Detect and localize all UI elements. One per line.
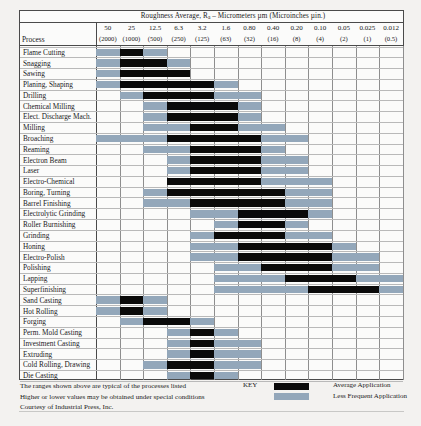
row-label-process: Superfinishing bbox=[23, 285, 66, 294]
bar-less-frequent-application bbox=[143, 199, 190, 206]
column-header-microinches: (250) bbox=[166, 34, 192, 44]
column-header-0: 50(2000) bbox=[95, 24, 121, 43]
row-label-process: Milling bbox=[23, 123, 45, 132]
row-label-process: Investment Casting bbox=[23, 339, 80, 348]
column-header-microinches: (2) bbox=[331, 34, 357, 44]
column-header-micrometers: 50 bbox=[104, 24, 111, 32]
bar-less-frequent-application bbox=[96, 135, 167, 142]
table-row[interactable]: Die Casting bbox=[20, 370, 403, 381]
table-row[interactable]: Electro-Chemical bbox=[20, 176, 403, 187]
bar-less-frequent-application bbox=[190, 253, 237, 260]
column-header-micrometers: 6.3 bbox=[174, 24, 183, 32]
table-row[interactable]: Grinding bbox=[20, 230, 403, 241]
row-label-process: Hot Rolling bbox=[23, 307, 58, 316]
table-row[interactable]: Boring, Turning bbox=[20, 187, 403, 198]
table-row[interactable]: Sand Casting bbox=[20, 294, 403, 305]
table-row[interactable]: Milling bbox=[20, 122, 403, 133]
bar-average-application bbox=[143, 318, 190, 325]
table-row[interactable]: Broaching bbox=[20, 133, 403, 144]
table-row[interactable]: Reaming bbox=[20, 144, 403, 155]
legend-key-word: KEY bbox=[243, 381, 257, 389]
row-label-process: Elect. Discharge Mach. bbox=[23, 112, 91, 121]
bar-less-frequent-application bbox=[285, 199, 332, 206]
bar-less-frequent-application bbox=[285, 189, 332, 196]
bar-less-frequent-application bbox=[96, 49, 120, 56]
table-row[interactable]: Electron Beam bbox=[20, 154, 403, 165]
row-label-process: Flame Cutting bbox=[23, 48, 65, 57]
bar-less-frequent-application bbox=[120, 318, 144, 325]
bar-less-frequent-application bbox=[238, 113, 262, 120]
table-row[interactable]: Elect. Discharge Mach. bbox=[20, 111, 403, 122]
bar-less-frequent-application bbox=[190, 318, 214, 325]
bar-less-frequent-application bbox=[214, 350, 261, 357]
column-header-12: 0.012(0.5) bbox=[378, 24, 404, 43]
column-header-4: 3.2(125) bbox=[189, 24, 215, 43]
bar-less-frequent-application bbox=[143, 113, 167, 120]
table-row[interactable]: Barrel Finishing bbox=[20, 197, 403, 208]
table-row[interactable]: Superfinishing bbox=[20, 284, 403, 295]
column-header-microinches: (1000) bbox=[118, 34, 144, 44]
table-row[interactable]: Extruding bbox=[20, 348, 403, 359]
column-header-microinches: (125) bbox=[189, 34, 215, 44]
chart-title-prefix: Roughness Average, R bbox=[141, 12, 208, 20]
bar-less-frequent-application bbox=[238, 124, 285, 131]
table-row[interactable]: Chemical Milling bbox=[20, 100, 403, 111]
bar-less-frequent-application bbox=[167, 59, 191, 66]
bar-average-application bbox=[190, 167, 261, 174]
table-row[interactable]: Cold Rolling, Drawing bbox=[20, 359, 403, 370]
bar-average-application bbox=[190, 372, 214, 379]
bar-less-frequent-application bbox=[214, 329, 238, 336]
row-label-process: Extruding bbox=[23, 350, 52, 359]
column-header-micrometers: 0.20 bbox=[290, 24, 302, 32]
bar-average-application bbox=[167, 102, 238, 109]
bar-average-application bbox=[167, 189, 285, 196]
column-header-5: 1.6(63) bbox=[213, 24, 239, 43]
table-row[interactable]: Forging bbox=[20, 316, 403, 327]
table-row[interactable]: Drilling bbox=[20, 90, 403, 101]
table-row[interactable]: Investment Casting bbox=[20, 338, 403, 349]
bar-less-frequent-application bbox=[214, 372, 238, 379]
row-label-process: Electron Beam bbox=[23, 156, 67, 165]
bar-less-frequent-application bbox=[261, 167, 308, 174]
bar-less-frequent-application bbox=[214, 92, 261, 99]
bar-less-frequent-application bbox=[261, 178, 332, 185]
table-row[interactable]: Polishing bbox=[20, 262, 403, 273]
page-bottom-rule bbox=[19, 411, 404, 412]
bar-average-application bbox=[120, 296, 144, 303]
bar-less-frequent-application bbox=[214, 221, 238, 228]
bar-average-application bbox=[190, 124, 237, 131]
column-header-micrometers: 0.40 bbox=[267, 24, 279, 32]
row-label-process: Grinding bbox=[23, 231, 49, 240]
table-row[interactable]: Electrolytic Grinding bbox=[20, 208, 403, 219]
table-row[interactable]: Roller Burnishing bbox=[20, 219, 403, 230]
legend-swatch-less-frequent bbox=[274, 393, 309, 400]
table-row[interactable]: Laser bbox=[20, 165, 403, 176]
bar-average-application bbox=[167, 135, 261, 142]
table-row[interactable]: Lapping bbox=[20, 273, 403, 284]
row-label-process: Lapping bbox=[23, 274, 47, 283]
table-row[interactable]: Perm. Mold Casting bbox=[20, 327, 403, 338]
bar-less-frequent-application bbox=[308, 210, 332, 217]
table-row[interactable]: Planing, Shaping bbox=[20, 79, 403, 90]
table-row[interactable]: Snagging bbox=[20, 57, 403, 68]
legend-label-average: Average Application bbox=[333, 381, 391, 389]
bar-less-frequent-application bbox=[143, 124, 190, 131]
bar-less-frequent-application bbox=[261, 135, 308, 142]
bar-less-frequent-application bbox=[332, 253, 379, 260]
column-header-11: 0.025(1) bbox=[354, 24, 380, 43]
table-row[interactable]: Hot Rolling bbox=[20, 305, 403, 316]
table-row[interactable]: Flame Cutting bbox=[20, 47, 403, 58]
bar-average-application bbox=[190, 350, 214, 357]
bar-less-frequent-application bbox=[143, 296, 167, 303]
bar-average-application bbox=[120, 70, 191, 77]
bar-average-application bbox=[214, 232, 285, 239]
table-row[interactable]: Sawing bbox=[20, 68, 403, 79]
row-label-process: Laser bbox=[23, 166, 39, 175]
column-header-2: 12.5(500) bbox=[142, 24, 168, 43]
row-label-process: Polishing bbox=[23, 263, 51, 272]
bar-less-frequent-application bbox=[167, 156, 191, 163]
table-row[interactable]: Electro-Polish bbox=[20, 251, 403, 262]
process-column-header: Process bbox=[22, 35, 45, 44]
chart-title: Roughness Average, Ra – Micrometers µm (… bbox=[63, 11, 403, 22]
table-row[interactable]: Honing bbox=[20, 241, 403, 252]
